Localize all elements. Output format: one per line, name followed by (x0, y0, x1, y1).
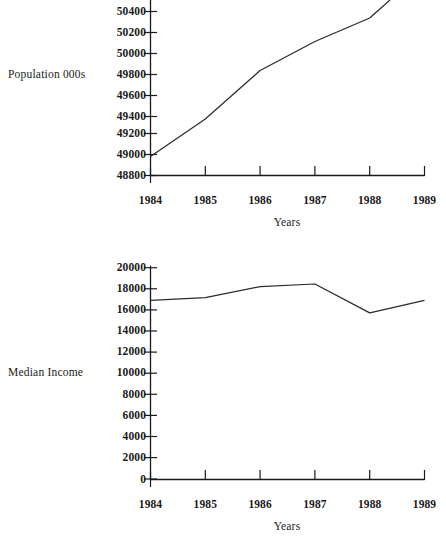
population-ytick-label: 50000 (104, 48, 146, 60)
income-ytick-label: 20000 (100, 262, 146, 274)
income-xtick-label: 1988 (348, 499, 392, 511)
income-xtick-label: 1986 (238, 499, 282, 511)
income-x-ticks (151, 470, 425, 487)
income-ytick-label: 0 (100, 474, 146, 486)
income-chart-canvas (0, 250, 446, 538)
population-xtick-label: 1984 (129, 195, 173, 207)
income-ytick-label: 18000 (100, 283, 146, 295)
income-ytick-label: 12000 (100, 346, 146, 358)
income-xtick-label: 1984 (129, 499, 173, 511)
population-ytick-label: 49200 (104, 128, 146, 140)
population-xtick-label: 1985 (183, 195, 227, 207)
population-ytick-label: 48800 (104, 170, 146, 182)
population-x-ticks (151, 166, 425, 183)
income-data-line (151, 284, 425, 313)
figure-page: 50400 50200 50000 49800 49600 49400 4920… (0, 0, 446, 538)
population-ytick-label: 49000 (104, 149, 146, 161)
population-xtick-label: 1989 (403, 195, 446, 207)
population-xtick-label: 1987 (293, 195, 337, 207)
population-x-axis-title: Years (257, 217, 317, 229)
population-line-chart: 50400 50200 50000 49800 49600 49400 4920… (0, 0, 446, 240)
population-y-axis-title: Population 000s (8, 69, 85, 81)
median-income-line-chart: 20000 18000 16000 14000 12000 10000 8000… (0, 250, 446, 538)
population-data-line (151, 0, 391, 157)
population-ytick-label: 50200 (104, 27, 146, 39)
income-ytick-label: 8000 (100, 389, 146, 401)
income-ytick-label: 4000 (100, 431, 146, 443)
income-ytick-label: 2000 (100, 452, 146, 464)
income-xtick-label: 1989 (403, 499, 446, 511)
population-ytick-label: 49800 (104, 69, 146, 81)
population-xtick-label: 1988 (348, 195, 392, 207)
population-ytick-label: 49400 (104, 111, 146, 123)
population-ytick-label: 50400 (104, 6, 146, 18)
income-ytick-label: 6000 (100, 410, 146, 422)
income-ytick-label: 10000 (100, 367, 146, 379)
income-xtick-label: 1987 (293, 499, 337, 511)
income-ytick-label: 14000 (100, 325, 146, 337)
income-y-axis-title: Median Income (8, 367, 83, 379)
population-ytick-label: 49600 (104, 90, 146, 102)
population-xtick-label: 1986 (238, 195, 282, 207)
income-xtick-label: 1985 (183, 499, 227, 511)
income-x-axis-title: Years (257, 521, 317, 533)
income-ytick-label: 16000 (100, 304, 146, 316)
